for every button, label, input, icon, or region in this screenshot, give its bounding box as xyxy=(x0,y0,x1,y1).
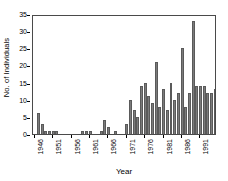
bar-1966 xyxy=(107,127,110,134)
x-tick-mark-1981 xyxy=(163,135,164,138)
x-axis-title: Year xyxy=(32,167,216,176)
bars-layer xyxy=(33,16,215,134)
bar-1961 xyxy=(89,131,92,134)
y-axis-tick-25: 25 xyxy=(13,45,27,53)
y-axis-tick-labels: 05101520253035 xyxy=(13,11,29,135)
bar-1990 xyxy=(195,86,198,134)
x-axis-tick-1956: 1956 xyxy=(73,139,83,165)
y-axis-tick-0: 0 xyxy=(13,131,27,139)
y-axis-tick-35: 35 xyxy=(13,11,27,19)
x-axis-tick-1991: 1991 xyxy=(201,139,211,165)
bar-1952 xyxy=(55,131,58,134)
bar-1972 xyxy=(129,100,132,134)
bar-1984 xyxy=(173,100,176,134)
bar-1949 xyxy=(44,131,47,134)
bar-1964 xyxy=(100,131,103,134)
bar-1976 xyxy=(144,83,147,134)
plot-area xyxy=(32,15,216,135)
y-axis-tick-20: 20 xyxy=(13,62,27,70)
y-tick-mark xyxy=(27,135,30,136)
y-tick-mark xyxy=(27,84,30,85)
bar-1971 xyxy=(125,124,128,134)
bar-1977 xyxy=(147,96,150,134)
bar-1948 xyxy=(41,124,44,134)
bar-1950 xyxy=(48,131,51,134)
bar-1965 xyxy=(103,120,106,134)
bar-1991 xyxy=(199,86,202,134)
y-axis-title-label: No. of Individuals xyxy=(3,38,12,97)
x-tick-mark-1986 xyxy=(181,135,182,138)
bar-1947 xyxy=(37,113,40,134)
bar-1978 xyxy=(151,103,154,134)
bar-1959 xyxy=(81,131,84,134)
x-tick-mark-1956 xyxy=(71,135,72,138)
bar-1992 xyxy=(203,86,206,134)
x-axis-tick-1961: 1961 xyxy=(91,139,101,165)
y-axis-tick-30: 30 xyxy=(13,28,27,36)
x-tick-mark-1971 xyxy=(126,135,127,138)
bar-1994 xyxy=(210,93,213,134)
y-tick-mark xyxy=(27,49,30,50)
bar-1989 xyxy=(192,21,195,134)
y-tick-mark xyxy=(27,66,30,67)
x-axis-tick-1986: 1986 xyxy=(183,139,193,165)
bar-1995 xyxy=(214,89,216,134)
bar-1960 xyxy=(85,131,88,134)
bar-1988 xyxy=(188,93,191,134)
bar-1987 xyxy=(184,107,187,134)
x-axis-tick-1946: 1946 xyxy=(36,139,46,165)
bar-1951 xyxy=(52,131,55,134)
bar-1985 xyxy=(177,93,180,134)
x-axis-tick-labels: 1946195119561961196619711976198119861991 xyxy=(32,139,216,165)
y-tick-mark xyxy=(27,118,30,119)
bar-1974 xyxy=(136,117,139,134)
x-axis-tick-1971: 1971 xyxy=(128,139,138,165)
bar-1981 xyxy=(162,89,165,134)
bar-1968 xyxy=(114,131,117,134)
x-axis-tick-1976: 1976 xyxy=(146,139,156,165)
x-axis-tick-1981: 1981 xyxy=(165,139,175,165)
x-tick-mark-1991 xyxy=(199,135,200,138)
x-tick-mark-1961 xyxy=(89,135,90,138)
bar-1982 xyxy=(166,110,169,134)
y-tick-mark xyxy=(27,32,30,33)
x-tick-mark-1951 xyxy=(52,135,53,138)
y-axis-tick-15: 15 xyxy=(13,80,27,88)
bar-1979 xyxy=(155,62,158,134)
y-axis-tick-10: 10 xyxy=(13,97,27,105)
y-axis-tick-5: 5 xyxy=(13,114,27,122)
bar-chart: No. of Individuals 05101520253035 194619… xyxy=(0,0,228,181)
y-tick-mark xyxy=(27,15,30,16)
bar-1973 xyxy=(133,110,136,134)
bar-1980 xyxy=(158,107,161,134)
x-axis-tick-1951: 1951 xyxy=(54,139,64,165)
bar-1986 xyxy=(181,48,184,134)
y-tick-mark xyxy=(27,101,30,102)
x-tick-mark-1966 xyxy=(107,135,108,138)
x-axis-tick-1966: 1966 xyxy=(109,139,119,165)
bar-1983 xyxy=(170,83,173,134)
y-axis-title: No. of Individuals xyxy=(0,0,14,135)
x-tick-mark-1976 xyxy=(144,135,145,138)
bar-1975 xyxy=(140,86,143,134)
x-tick-mark-1946 xyxy=(34,135,35,138)
bar-1993 xyxy=(206,93,209,134)
